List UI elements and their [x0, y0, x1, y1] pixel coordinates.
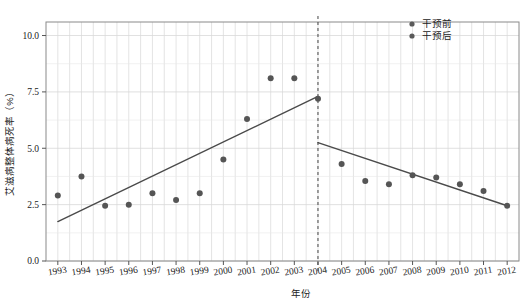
data-point [433, 175, 439, 181]
data-point [244, 116, 250, 122]
y-axis-title: 艾滋病整体病死率（%） [4, 87, 15, 195]
data-point [386, 181, 392, 187]
data-point [268, 75, 274, 81]
data-point [197, 190, 203, 196]
data-point [102, 203, 108, 209]
legend-label: 干预后 [422, 30, 452, 41]
aids-mortality-scatter-chart: 0.02.55.07.510.0 19931994199519961997199… [0, 0, 530, 305]
y-tick-label: 2.5 [27, 200, 39, 210]
data-point [149, 190, 155, 196]
chart-background [0, 0, 530, 305]
data-point [362, 178, 368, 184]
data-point [481, 188, 487, 194]
chart-container: 0.02.55.07.510.0 19931994199519961997199… [0, 0, 530, 305]
legend-label: 干预前 [422, 18, 452, 29]
data-point [457, 181, 463, 187]
data-point [291, 75, 297, 81]
data-point [315, 96, 321, 102]
data-point [410, 172, 416, 178]
data-point [126, 202, 132, 208]
x-axis-title: 年份 [291, 288, 311, 299]
legend-marker [409, 21, 414, 26]
data-point [504, 203, 510, 209]
data-point [220, 157, 226, 163]
data-point [173, 197, 179, 203]
data-point [78, 173, 84, 179]
y-tick-label: 5.0 [27, 144, 39, 154]
legend-marker [409, 33, 414, 38]
y-tick-label: 7.5 [27, 87, 39, 97]
data-point [55, 193, 61, 199]
y-tick-label: 10.0 [22, 31, 39, 41]
y-tick-label: 0.0 [27, 256, 39, 266]
data-point [339, 161, 345, 167]
